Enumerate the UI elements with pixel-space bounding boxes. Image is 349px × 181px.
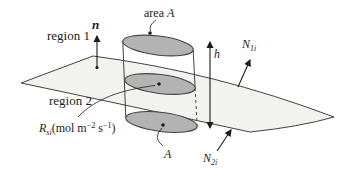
flux2-symbol: N bbox=[203, 151, 211, 165]
area-top-variable: A bbox=[167, 6, 174, 20]
region2-label: region 2 bbox=[49, 94, 92, 107]
top-disk-dot bbox=[148, 31, 152, 35]
flux-arrow-region1 bbox=[238, 60, 250, 87]
surface-rate-subscript: si bbox=[46, 128, 51, 137]
flux2-label: N2i bbox=[203, 152, 217, 164]
area-top-leader bbox=[150, 20, 156, 31]
surface-rate-unit-2: s bbox=[95, 121, 103, 135]
flux1-subscript: 1i bbox=[250, 44, 256, 53]
middle-disk-dot bbox=[157, 82, 161, 86]
bottom-disk-dot bbox=[161, 123, 165, 127]
surface-rate-label: Rsi(mol m−2 s−1) bbox=[39, 122, 115, 134]
surface-rate-exponent-1: −2 bbox=[87, 121, 96, 130]
area-top-label: area A bbox=[144, 7, 174, 19]
flux-arrow-region2 bbox=[217, 130, 231, 151]
area-bottom-label: A bbox=[164, 148, 171, 160]
flux1-symbol: N bbox=[242, 37, 250, 51]
top-disk bbox=[122, 32, 195, 60]
surface-rate-unit-1: (mol m bbox=[52, 121, 87, 135]
normal-base-dot bbox=[95, 66, 98, 69]
area-top-word: area bbox=[144, 6, 167, 20]
flux2-subscript: 2i bbox=[211, 158, 217, 167]
normal-vector-label: n bbox=[92, 18, 99, 31]
surface-rate-unit-3: ) bbox=[111, 121, 115, 135]
height-label: h bbox=[214, 48, 220, 60]
interface-pillbox-figure: region 1 n area A h N1i region 2 Rsi(mol… bbox=[0, 0, 349, 181]
flux1-label: N1i bbox=[242, 38, 256, 50]
region1-label: region 1 bbox=[47, 29, 90, 42]
surface-rate-exponent-2: −1 bbox=[103, 121, 112, 130]
